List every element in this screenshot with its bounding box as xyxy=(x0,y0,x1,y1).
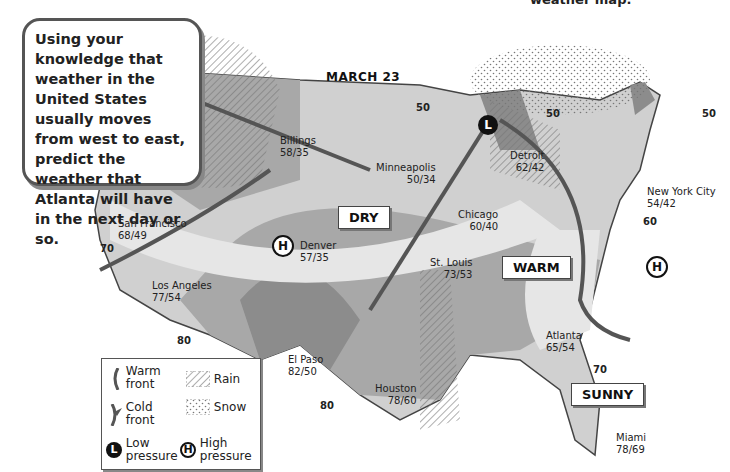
isotherm-label: 60 xyxy=(643,216,657,227)
city-atlanta: Atlanta65/54 xyxy=(546,330,582,354)
city-el-paso: El Paso82/50 xyxy=(288,354,323,378)
city-billings: Billings58/35 xyxy=(280,135,316,159)
map-legend: Warm front Cold front L Low pressure Rai… xyxy=(101,358,261,470)
region-label-sunny: SUNNY xyxy=(571,383,644,406)
svg-text:L: L xyxy=(484,118,492,132)
prediction-prompt-callout: Using your knowledge that weather in the… xyxy=(22,18,202,186)
cold-front-icon xyxy=(108,404,122,424)
low-pressure-icon: L xyxy=(106,442,122,458)
svg-text:H: H xyxy=(652,260,662,274)
region-label-warm: WARM xyxy=(502,256,571,279)
legend-high-pressure: H High pressure xyxy=(180,437,250,463)
legend-low-pressure: L Low pressure xyxy=(106,437,172,463)
warm-front-icon xyxy=(108,368,122,388)
city-chicago: Chicago60/40 xyxy=(458,209,498,233)
city-detroit: Detroit62/42 xyxy=(510,150,544,174)
city-los-angeles: Los Angeles77/54 xyxy=(152,280,212,304)
map-title: MARCH 23 xyxy=(326,70,400,84)
rain-swatch-icon xyxy=(186,371,210,387)
isotherm-label: 80 xyxy=(177,335,191,346)
city-minneapolis: Minneapolis50/34 xyxy=(376,162,436,186)
city-new-york-city: New York City54/42 xyxy=(647,186,716,210)
isotherm-label: 50 xyxy=(416,102,430,113)
city-miami: Miami78/69 xyxy=(616,432,646,456)
high-pressure-icon: H xyxy=(180,442,196,458)
city-st-louis: St. Louis73/53 xyxy=(430,257,472,281)
snow-swatch-icon xyxy=(186,399,210,415)
legend-rain: Rain xyxy=(186,371,240,387)
low-pressure-great-lakes: L xyxy=(478,115,498,135)
svg-text:H: H xyxy=(278,239,288,253)
isotherm-label: 50 xyxy=(702,108,716,119)
isotherm-label: 70 xyxy=(593,364,607,375)
legend-cold-front: Cold front xyxy=(108,401,171,427)
legend-warm-front: Warm front xyxy=(108,365,171,391)
high-pressure-denver: H xyxy=(273,236,293,256)
snow-area xyxy=(470,45,650,115)
city-denver: Denver57/35 xyxy=(300,240,336,264)
city-houston: Houston78/60 xyxy=(375,383,417,407)
region-label-dry: DRY xyxy=(338,206,390,229)
high-pressure-atlantic: H xyxy=(647,257,667,277)
isotherm-label: 80 xyxy=(320,400,334,411)
isotherm-label: 50 xyxy=(546,108,560,119)
isotherm-label: 70 xyxy=(100,243,114,254)
legend-snow: Snow xyxy=(186,399,246,415)
